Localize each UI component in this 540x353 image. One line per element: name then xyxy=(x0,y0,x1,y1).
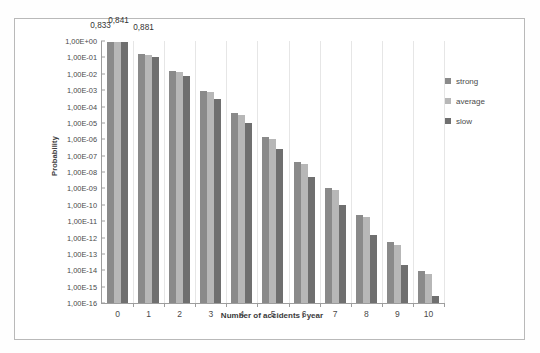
y-axis-tick-label: 1,00E-06 xyxy=(43,135,97,144)
legend-swatch-icon xyxy=(445,118,451,124)
y-axis-tick-label: 1,00E-07 xyxy=(43,151,97,160)
bar xyxy=(145,55,152,303)
bar xyxy=(152,57,159,303)
bar xyxy=(394,245,401,303)
y-axis-tick-label: 1,00E-11 xyxy=(43,217,97,226)
x-axis-tick-mark xyxy=(444,303,445,307)
bar xyxy=(269,139,276,303)
y-axis-tick-label: 1,00E-03 xyxy=(43,86,97,95)
bar xyxy=(308,177,315,303)
bar xyxy=(231,113,238,303)
y-axis: 1,00E+001,00E-011,00E-021,00E-031,00E-04… xyxy=(43,41,101,303)
data-label: 0,841 xyxy=(108,16,129,25)
x-axis-tick-mark xyxy=(226,303,227,307)
bar xyxy=(114,42,121,303)
y-axis-tick-label: 1,00E-09 xyxy=(43,184,97,193)
bar xyxy=(238,115,245,303)
plot-area: 0123456789100,8330,8410,881 xyxy=(101,41,444,304)
bar xyxy=(332,190,339,303)
bar xyxy=(401,265,408,303)
y-axis-tick-label: 1,00E-01 xyxy=(43,53,97,62)
legend-swatch-icon xyxy=(445,78,451,84)
legend-item[interactable]: average xyxy=(445,91,519,111)
bar xyxy=(176,72,183,303)
bar xyxy=(107,42,114,303)
x-axis-tick-mark xyxy=(195,303,196,307)
legend-item-label: strong xyxy=(456,77,478,86)
y-axis-tick-label: 1,00E-14 xyxy=(43,266,97,275)
y-axis-tick-label: 1,00E-16 xyxy=(43,299,97,308)
legend-item-label: slow xyxy=(456,117,472,126)
bar-group xyxy=(102,41,133,303)
bar xyxy=(387,242,394,303)
bar-group xyxy=(382,41,413,303)
bar xyxy=(276,149,283,303)
bar xyxy=(356,215,363,303)
bar xyxy=(138,54,145,303)
bar-group xyxy=(320,41,351,303)
y-axis-tick-label: 1,00E-02 xyxy=(43,69,97,78)
data-label: 0,881 xyxy=(133,23,154,32)
legend-item-label: average xyxy=(456,97,485,106)
legend-item[interactable]: strong xyxy=(445,71,519,91)
x-axis-tick-mark xyxy=(320,303,321,307)
bar xyxy=(432,296,439,303)
bar-group xyxy=(195,41,226,303)
bar xyxy=(301,164,308,303)
bar xyxy=(363,217,370,303)
legend-item[interactable]: slow xyxy=(445,111,519,131)
bar-group xyxy=(257,41,288,303)
bar xyxy=(121,42,128,303)
bar xyxy=(425,274,432,303)
y-axis-tick-label: 1,00E-08 xyxy=(43,168,97,177)
chart-frame: Probability 1,00E+001,00E-011,00E-021,00… xyxy=(14,18,525,340)
bar xyxy=(169,71,176,303)
y-axis-tick-label: 1,00E-13 xyxy=(43,249,97,258)
bar-group xyxy=(133,41,164,303)
y-axis-tick-label: 1,00E-12 xyxy=(43,233,97,242)
x-axis-tick-mark xyxy=(413,303,414,307)
y-axis-tick-label: 1,00E-10 xyxy=(43,200,97,209)
bar xyxy=(207,92,214,303)
x-axis-tick-mark xyxy=(133,303,134,307)
x-axis-tick-mark xyxy=(382,303,383,307)
bar xyxy=(370,235,377,303)
bar xyxy=(183,76,190,303)
x-axis-tick-mark xyxy=(164,303,165,307)
x-axis-tick-mark xyxy=(351,303,352,307)
bar-group xyxy=(226,41,257,303)
x-axis-title: Number of accidents / year xyxy=(101,311,443,320)
bar xyxy=(245,123,252,303)
y-axis-tick-label: 1,00E-05 xyxy=(43,118,97,127)
bar xyxy=(262,137,269,303)
x-axis-tick-mark xyxy=(289,303,290,307)
chart-legend: strongaverageslow xyxy=(445,71,519,131)
bar xyxy=(339,205,346,303)
y-axis-tick-label: 1,00E-04 xyxy=(43,102,97,111)
y-axis-tick-label: 1,00E+00 xyxy=(43,37,97,46)
y-axis-tick-label: 1,00E-15 xyxy=(43,282,97,291)
bar-group xyxy=(413,41,444,303)
x-axis-tick-mark xyxy=(257,303,258,307)
bar xyxy=(325,188,332,303)
bar xyxy=(200,91,207,303)
legend-swatch-icon xyxy=(445,98,451,104)
bar xyxy=(294,162,301,303)
bar xyxy=(418,271,425,303)
bar-group xyxy=(289,41,320,303)
bar-group xyxy=(351,41,382,303)
bar-group xyxy=(164,41,195,303)
bar xyxy=(214,99,221,303)
